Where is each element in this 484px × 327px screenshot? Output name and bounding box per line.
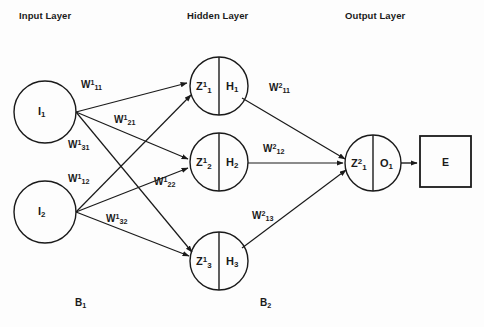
weight-label-w1-32: W132: [106, 212, 127, 226]
layer2-connections: [242, 98, 346, 248]
hidden-node-h1-z-label: Z11: [196, 80, 212, 95]
hidden-node-h2-z-base: Z: [196, 156, 203, 168]
weight-label-w1-31: W131: [68, 138, 89, 152]
hidden-node-h3-h-base: H: [226, 255, 234, 267]
hidden-node-h3-h-sub: 3: [234, 260, 238, 269]
hidden-node-h2-z-label: Z12: [196, 156, 212, 171]
layer-title-hidden: Hidden Layer: [187, 10, 248, 21]
bias-label-b2: B2: [260, 297, 271, 310]
output-node-o1-o-base: O: [380, 157, 389, 169]
input-node-i1-sub: 1: [41, 110, 45, 119]
bias-b1-sub: 1: [82, 301, 86, 310]
hidden-node-h1-h-sub: 1: [234, 85, 238, 94]
weight-w1-21-sub: 21: [127, 118, 135, 127]
hidden-node-h2-z-sub: 2: [207, 162, 211, 171]
hidden-node-h1-z-sub: 1: [207, 86, 211, 95]
weight-label-w1-22: W122: [154, 175, 175, 189]
weight-w1-32-sub: 32: [119, 217, 127, 226]
hidden-node-h1-h-label: H1: [226, 80, 238, 94]
weight-w2-11-sub: 11: [282, 86, 290, 95]
layer-title-input: Input Layer: [19, 10, 71, 21]
hidden-node-h3-z-base: Z: [196, 255, 203, 267]
hidden-node-h1-z-base: Z: [196, 80, 203, 92]
hidden-node-h3-z-label: Z13: [196, 255, 212, 270]
connection-i2-h3: [76, 212, 189, 256]
weight-w1-31-sub: 31: [81, 143, 89, 152]
weight-w1-12-sub: 12: [81, 177, 89, 186]
output-node-o1-z-base: Z: [351, 157, 358, 169]
weight-w2-13-sub: 13: [265, 214, 273, 223]
weight-w1-11-sub: 11: [94, 83, 102, 92]
weight-w1-22-sub: 22: [167, 180, 175, 189]
weight-label-w2-12: W212: [263, 142, 284, 156]
hidden-node-h3-z-sub: 3: [207, 261, 211, 270]
output-node-o1-z-sub: 1: [362, 163, 366, 172]
output-node-o1-o-label: O1: [380, 157, 393, 171]
weight-label-w1-12: W112: [68, 172, 89, 186]
neural-network-diagram: Input Layer Hidden Layer Output Layer I1…: [0, 0, 484, 327]
input-node-i1-label: I1: [38, 105, 45, 119]
bias-b2-sub: 2: [267, 301, 271, 310]
diagram-vector-layer: [0, 0, 484, 327]
weight-label-w2-11: W211: [269, 81, 290, 95]
input-node-i2-label: I2: [38, 205, 45, 219]
output-node-o1-o-sub: 1: [389, 162, 393, 171]
output-node-o1-z-label: Z21: [351, 157, 367, 172]
hidden-node-h3-h-label: H3: [226, 255, 238, 269]
connection-h1-o1: [242, 98, 345, 159]
weight-label-w2-13: W213: [252, 209, 273, 223]
layer1-connections: [76, 83, 192, 256]
weight-label-w1-11: W111: [81, 78, 102, 92]
weight-w2-12-sub: 12: [276, 147, 284, 156]
error-box-label: E: [442, 156, 449, 168]
hidden-node-h2-h-label: H2: [226, 156, 238, 170]
hidden-node-h1-h-base: H: [226, 80, 234, 92]
bias-label-b1: B1: [75, 297, 86, 310]
input-node-i2-sub: 2: [41, 210, 45, 219]
weight-label-w1-21: W121: [114, 113, 135, 127]
hidden-node-h2-h-sub: 2: [234, 161, 238, 170]
layer-title-output: Output Layer: [345, 10, 405, 21]
hidden-node-h2-h-base: H: [226, 156, 234, 168]
